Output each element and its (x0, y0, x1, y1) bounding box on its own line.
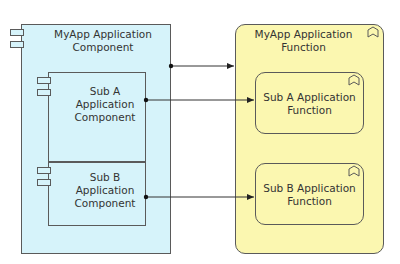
connectors (0, 0, 400, 264)
assignment-edge-myapp[interactable] (169, 64, 234, 68)
assignment-edge-sub-b[interactable] (144, 195, 254, 199)
assignment-edge-sub-a[interactable] (144, 98, 254, 102)
